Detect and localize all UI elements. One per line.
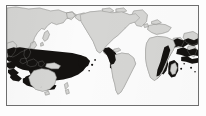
range-dot-atlantic-1	[190, 67, 192, 69]
range-dot-mascarene-2	[183, 63, 185, 65]
range-dot-pacific-1	[91, 64, 93, 66]
figure-container	[0, 0, 206, 116]
map-frame	[6, 5, 199, 106]
world-map	[7, 6, 198, 105]
range-dot-pacific-2	[94, 59, 96, 61]
range-dot-mascarene-1	[180, 68, 182, 70]
figure-title	[0, 0, 1, 1]
range-dot-pacific-3	[88, 70, 90, 72]
range-dot-atlantic-2	[194, 71, 196, 73]
figure-caption	[0, 0, 1, 1]
